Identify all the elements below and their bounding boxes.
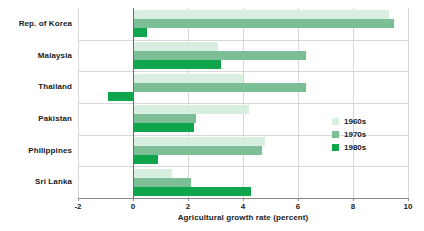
category-label: Philippines xyxy=(0,146,72,155)
bar xyxy=(133,114,196,123)
gridline-horizontal xyxy=(78,71,408,72)
legend-swatch xyxy=(332,131,339,138)
x-tick-mark xyxy=(353,198,354,201)
category-label: Sri Lanka xyxy=(0,177,72,186)
x-tick-label: 0 xyxy=(118,202,148,211)
bar xyxy=(133,146,262,155)
bar xyxy=(133,178,191,187)
bar xyxy=(133,137,265,146)
x-tick-mark xyxy=(408,198,409,201)
legend-swatch xyxy=(332,144,339,151)
bar xyxy=(133,19,394,28)
x-tick-mark xyxy=(298,198,299,201)
legend-swatch xyxy=(332,118,339,125)
legend-item: 1980s xyxy=(332,141,366,153)
x-axis-title: Agricultural growth rate (percent) xyxy=(78,213,408,222)
gridline-horizontal xyxy=(78,166,408,167)
category-label: Thailand xyxy=(0,82,72,91)
chart-legend: 1960s1970s1980s xyxy=(332,115,366,154)
x-tick-mark xyxy=(78,198,79,201)
x-tick-mark xyxy=(133,198,134,201)
legend-item: 1960s xyxy=(332,115,366,127)
bar xyxy=(133,105,249,114)
bar xyxy=(108,92,133,101)
bar xyxy=(133,28,147,37)
agricultural-growth-rate-bar-chart: Rep. of KoreaMalaysiaThailandPakistanPhi… xyxy=(0,0,424,231)
gridline-vertical xyxy=(408,8,409,198)
x-tick-mark xyxy=(243,198,244,201)
bar xyxy=(133,169,172,178)
legend-label: 1980s xyxy=(344,143,366,152)
bar xyxy=(133,83,306,92)
category-axis-labels: Rep. of KoreaMalaysiaThailandPakistanPhi… xyxy=(0,8,72,198)
x-tick-label: 2 xyxy=(173,202,203,211)
bar xyxy=(133,74,243,83)
bar xyxy=(133,42,218,51)
x-tick-mark xyxy=(188,198,189,201)
gridline-horizontal xyxy=(78,103,408,104)
legend-label: 1970s xyxy=(344,130,366,139)
legend-label: 1960s xyxy=(344,117,366,126)
bar xyxy=(133,10,389,19)
category-label: Rep. of Korea xyxy=(0,19,72,28)
category-label: Malaysia xyxy=(0,51,72,60)
x-tick-label: 4 xyxy=(228,202,258,211)
x-tick-label: -2 xyxy=(63,202,93,211)
category-label: Pakistan xyxy=(0,114,72,123)
bar xyxy=(133,155,158,164)
bar xyxy=(133,187,251,196)
bar xyxy=(133,51,306,60)
legend-item: 1970s xyxy=(332,128,366,140)
x-tick-label: 8 xyxy=(338,202,368,211)
gridline-horizontal xyxy=(78,40,408,41)
plot-area xyxy=(78,8,408,198)
bar xyxy=(133,123,194,132)
zero-axis-line xyxy=(133,8,134,198)
x-tick-label: 6 xyxy=(283,202,313,211)
bar xyxy=(133,60,221,69)
x-tick-label: 10 xyxy=(393,202,423,211)
